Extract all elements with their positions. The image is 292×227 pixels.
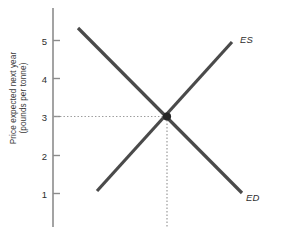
chart-figure: Price expected next year (pounds per ton…	[0, 0, 292, 227]
es-curve-label: ES	[240, 34, 253, 45]
y-tick-label-2: 2	[33, 150, 47, 161]
y-tick-label-5: 5	[33, 35, 47, 46]
y-tick-label-1: 1	[33, 188, 47, 199]
ed-curve-label: ED	[246, 192, 260, 203]
y-tick-label-3: 3	[33, 111, 47, 122]
ed-curve	[78, 28, 242, 193]
equilibrium-point-marker	[163, 112, 171, 120]
y-tick-label-4: 4	[33, 73, 47, 84]
